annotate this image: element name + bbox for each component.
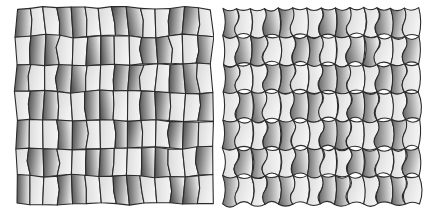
tile-cell (198, 92, 214, 121)
tile-cell (15, 8, 32, 37)
tile-cell (169, 93, 185, 122)
tile-cell (43, 176, 60, 205)
tile-cell (292, 35, 310, 64)
tile-cell (43, 120, 59, 150)
tile-cell (14, 91, 30, 121)
tile-cell (86, 36, 101, 66)
tile-cell (126, 148, 141, 177)
tile-cell (141, 120, 156, 147)
tile-cell (263, 8, 281, 37)
tile-cell (140, 38, 158, 64)
tile-cell (183, 176, 200, 204)
tile-cell (114, 120, 128, 149)
tile-cell (99, 148, 114, 176)
tile-cell (100, 120, 116, 150)
tile-cell (198, 8, 214, 37)
tile-cell (86, 65, 101, 92)
tile-cell (197, 63, 213, 94)
tile-cell (16, 119, 30, 149)
tile-cell (85, 90, 100, 121)
tile-cell (28, 90, 44, 121)
tile-cell (141, 147, 155, 178)
tile-cell (71, 149, 86, 176)
tile-cell (57, 149, 73, 176)
tile-cell (100, 90, 114, 121)
tile-cell (112, 148, 127, 176)
tiling-panel-left (0, 0, 214, 219)
tile-cell (182, 34, 199, 64)
tile-cell (101, 36, 115, 65)
tile-cell (155, 176, 172, 202)
tile-cell (155, 92, 171, 121)
tile-cell (402, 8, 420, 37)
tile-cell (55, 65, 72, 94)
tile-cell (43, 90, 59, 120)
tile-cell (57, 174, 72, 205)
tile-cell (29, 119, 43, 149)
tile-cell (17, 175, 30, 205)
tile-cell (113, 64, 129, 91)
left-tiling-svg (0, 0, 214, 219)
tile-cell (127, 120, 142, 148)
tile-cell (196, 35, 214, 64)
tile-cell (196, 146, 213, 175)
tile-cell (71, 174, 86, 203)
tile-cell (168, 122, 184, 150)
tile-cell (155, 64, 170, 94)
tile-cell (86, 120, 101, 149)
tile-cell (58, 92, 73, 121)
tile-cell (72, 37, 88, 66)
tile-cell (100, 64, 115, 91)
tile-cell (376, 175, 393, 203)
tile-cell (155, 8, 170, 38)
tile-cell (114, 36, 130, 66)
tile-cell (57, 7, 73, 38)
tile-cell (15, 36, 31, 66)
tile-cell (86, 149, 101, 177)
tile-cell (27, 148, 44, 177)
right-tiling-svg (213, 0, 427, 219)
tile-cell (71, 7, 87, 38)
tile-cell (198, 121, 213, 148)
tile-cell (56, 35, 73, 65)
tile-cell (30, 175, 44, 205)
tile-cell (71, 65, 88, 93)
tile-cell (113, 90, 128, 121)
figure-root (0, 0, 427, 219)
tile-cell (182, 122, 198, 150)
tile-cell (182, 7, 199, 36)
tile-cell (140, 8, 155, 38)
tile-cell (197, 174, 213, 203)
tile-cell (57, 120, 73, 150)
tile-cell (28, 64, 44, 91)
tile-cell (320, 36, 337, 65)
tile-cell (139, 91, 156, 121)
tile-cell (30, 34, 46, 66)
tiling-panel-right (213, 0, 427, 219)
